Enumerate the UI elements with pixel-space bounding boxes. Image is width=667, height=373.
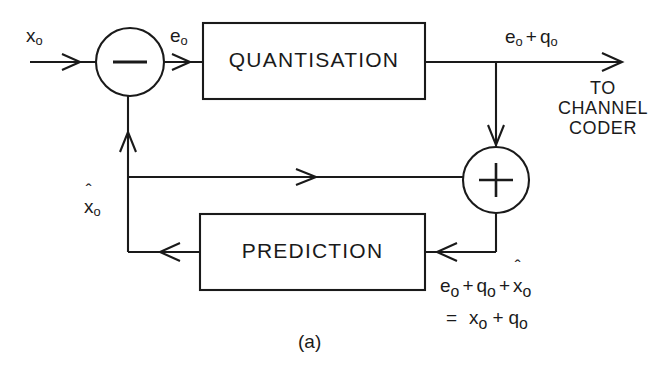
- eq2-s2: o: [519, 315, 528, 332]
- eq1-op1: +: [459, 275, 476, 296]
- eq1-t3: x: [513, 275, 523, 296]
- dpcm-encoder-diagram: QUANTISATION PREDICTION xo eo eo+qo TO C…: [0, 0, 667, 373]
- error-signal-label: eo: [170, 25, 188, 48]
- quantised-output-op: +: [523, 26, 540, 47]
- destination-line-1: TO: [548, 78, 658, 98]
- prediction-label: PREDICTION: [200, 239, 425, 263]
- eq1-t2: q: [477, 275, 488, 296]
- equation-line-2: =xo+qo: [440, 304, 531, 336]
- eq1-op2: +: [496, 275, 513, 296]
- quantised-output-q-sub: o: [550, 34, 557, 49]
- eq1-hat: ˆ: [515, 259, 521, 276]
- eq1-hat-wrap: ˆx: [513, 272, 523, 300]
- error-signal-base: e: [170, 25, 181, 46]
- error-signal-sub: o: [181, 33, 188, 48]
- quantised-output-q: q: [540, 26, 551, 47]
- eq2-t2: q: [509, 307, 520, 328]
- prediction-feedback-sub: o: [94, 204, 101, 219]
- prediction-feedback-hat: ˆ: [86, 183, 92, 200]
- destination-label: TO CHANNEL CODER: [548, 78, 658, 138]
- equation-block: eo+qo+ˆxo =xo+qo: [440, 272, 531, 335]
- eq1-s3: o: [523, 283, 532, 300]
- eq1-s2: o: [487, 283, 496, 300]
- input-signal-label: xo: [26, 25, 43, 48]
- equation-line-1: eo+qo+ˆxo: [440, 272, 531, 304]
- quantisation-label: QUANTISATION: [203, 48, 425, 72]
- destination-line-2: CHANNEL: [548, 98, 658, 118]
- quantised-output-label: eo+qo: [505, 26, 558, 49]
- eq1-t1: e: [440, 275, 451, 296]
- input-signal-sub: o: [36, 33, 43, 48]
- figure-caption: (a): [298, 331, 321, 353]
- prediction-feedback-label: ˆxo: [84, 196, 101, 219]
- prediction-feedback-hat-wrap: ˆx: [84, 196, 94, 218]
- eq2-eq: =: [446, 307, 457, 328]
- quantised-output-e-sub: o: [516, 34, 523, 49]
- eq2-op1: +: [487, 307, 508, 328]
- input-signal-base: x: [26, 25, 36, 46]
- eq2-t1: x: [469, 307, 479, 328]
- destination-line-3: CODER: [548, 118, 658, 138]
- quantised-output-e: e: [505, 26, 516, 47]
